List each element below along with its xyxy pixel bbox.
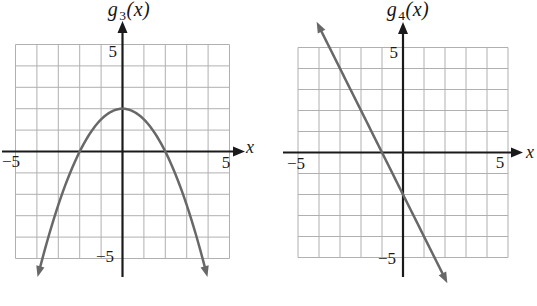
- g4-function-subscript: 4: [398, 8, 405, 23]
- graph-g3-title: g3(x): [69, 0, 189, 24]
- x-min-tick-label: −5: [2, 152, 20, 171]
- x-max-tick-label: 5: [222, 153, 231, 172]
- y-min-tick-label: −5: [96, 247, 114, 266]
- y-max-tick-label: 5: [390, 43, 399, 62]
- curve-g4-start-arrowhead-icon: [317, 22, 326, 34]
- plot-svg-g4: 5−5−55x: [269, 0, 537, 306]
- x-min-tick-label: −5: [287, 154, 305, 173]
- x-axis-arrowhead-icon: [511, 148, 523, 158]
- g3-function-name: g: [108, 0, 119, 20]
- y-max-tick-label: 5: [109, 42, 118, 61]
- graph-g4-title: g4(x): [348, 0, 468, 24]
- x-axis-arrowhead-icon: [233, 147, 245, 157]
- x-axis-label: x: [525, 142, 534, 162]
- g4-function-arg: (x): [406, 0, 430, 20]
- plot-svg-g3: 5−5−55x: [0, 0, 269, 306]
- y-min-tick-label: −5: [378, 249, 396, 268]
- curve-g3-end-arrowhead-icon: [201, 265, 209, 277]
- curve-g3-start-arrowhead-icon: [36, 265, 44, 277]
- figure-canvas: 5−5−55x g3(x) 5−5−55x g4(x): [0, 0, 537, 306]
- g4-function-name: g: [387, 0, 398, 20]
- graph-g3: 5−5−55x g3(x): [0, 0, 269, 306]
- x-axis-label: x: [245, 137, 254, 157]
- g3-function-arg: (x): [127, 0, 151, 20]
- graph-g4: 5−5−55x g4(x): [269, 0, 537, 306]
- curve-g4-end-arrowhead-icon: [439, 272, 448, 284]
- x-max-tick-label: 5: [496, 153, 505, 172]
- g3-function-subscript: 3: [119, 8, 126, 23]
